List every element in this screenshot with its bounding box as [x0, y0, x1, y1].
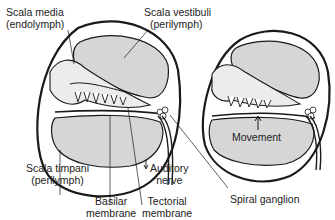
label-tectorial-membrane: Tectorial membrane: [142, 195, 192, 219]
label-scala-vestibuli: Scala vestibuli (perilymph): [144, 6, 211, 30]
right-cochlea: [203, 31, 329, 181]
label-scala-timpani: Scala timpani (perilymph): [26, 162, 89, 186]
cochlea-diagram: [0, 0, 335, 220]
label-basilar-membrane: Basilar membrane: [86, 195, 136, 219]
label-movement: Movement: [232, 131, 281, 143]
label-spiral-ganglion: Spiral ganglion: [230, 193, 299, 205]
label-scala-media: Scala media (endolymph): [6, 6, 64, 30]
label-auditory-nerve: Auditory nerve: [150, 162, 189, 186]
